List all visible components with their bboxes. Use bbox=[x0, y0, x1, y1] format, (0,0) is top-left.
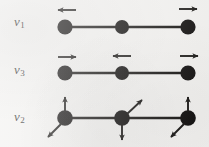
atom-right-nu1 bbox=[180, 19, 195, 34]
mode-group-nu2 bbox=[48, 97, 196, 140]
mode-group-nu3 bbox=[57, 56, 198, 81]
arrow-center-atom-up-right-nu2 bbox=[127, 100, 142, 114]
modes-drawing bbox=[0, 0, 209, 147]
atom-center-nu3 bbox=[115, 66, 129, 80]
atom-right-nu2 bbox=[180, 110, 196, 126]
mode-group-nu1 bbox=[57, 9, 197, 35]
atom-center-nu1 bbox=[115, 20, 129, 34]
atom-left-nu2 bbox=[57, 110, 73, 126]
arrow-right-atom-down-left-nu2 bbox=[171, 124, 184, 137]
atom-right-nu3 bbox=[180, 65, 195, 80]
vibrational-modes-figure: ν1 ν3 ν2 bbox=[0, 0, 209, 147]
atom-left-nu1 bbox=[57, 19, 72, 34]
atom-left-nu3 bbox=[57, 65, 72, 80]
arrow-left-atom-down-left-nu2 bbox=[48, 124, 61, 137]
